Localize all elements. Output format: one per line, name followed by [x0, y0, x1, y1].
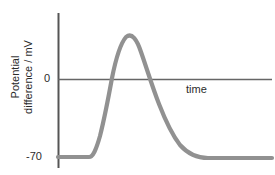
y-axis-title-line2: difference / mV — [22, 25, 35, 129]
y-tick-label-zero: 0 — [44, 72, 50, 84]
y-axis-title-line1: Potential — [9, 25, 22, 129]
action-potential-curve — [58, 35, 272, 158]
y-axis-title: Potential difference / mV — [9, 25, 35, 129]
x-axis-title: time — [186, 83, 207, 95]
plot-area — [0, 0, 275, 175]
action-potential-figure: Potential difference / mV 0 -70 time — [0, 0, 275, 175]
y-tick-label-resting: -70 — [26, 150, 42, 162]
